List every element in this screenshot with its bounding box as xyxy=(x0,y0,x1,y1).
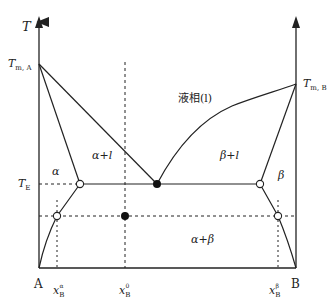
beta-tie-point xyxy=(274,212,281,219)
arrow-up-icon xyxy=(292,16,300,28)
region-liquid: 液相(l) xyxy=(178,93,212,104)
tm-a-label: Tm, A xyxy=(8,58,32,72)
solvus-left xyxy=(39,184,80,268)
x-beta-subscript: B xyxy=(275,291,280,299)
region-alpha-beta: α+β xyxy=(191,234,214,245)
te-subscript: E xyxy=(25,184,30,192)
tm-b-subscript: m, B xyxy=(310,84,326,92)
alpha-tie-point xyxy=(53,212,60,219)
x-beta-superscript: β xyxy=(275,282,278,289)
solidus-left xyxy=(39,64,80,184)
alpha-eutectic-point xyxy=(76,180,83,187)
x-alpha-subscript: B xyxy=(59,291,64,299)
region-alpha-liquid: α+l xyxy=(92,150,112,161)
phase-diagram xyxy=(0,0,335,304)
x-beta-label: xBβ xyxy=(269,283,279,299)
region-alpha: α xyxy=(52,166,59,177)
x-overall-label: xB0 xyxy=(119,283,129,299)
te-label: TE xyxy=(18,178,30,192)
region-beta-liquid: β+l xyxy=(220,150,239,161)
eutectic-point xyxy=(153,180,161,188)
x-alpha-superscript: α xyxy=(59,282,63,289)
overall-point xyxy=(121,212,129,220)
region-beta: β xyxy=(278,170,284,181)
arrow-up-icon xyxy=(35,16,43,28)
component-a-label: A xyxy=(34,278,43,290)
beta-eutectic-point xyxy=(256,180,263,187)
tm-b-label: Tm, B xyxy=(303,78,327,92)
tm-a-subscript: m, A xyxy=(15,64,31,72)
x-overall-subscript: B xyxy=(125,291,130,299)
x-overall-superscript: 0 xyxy=(125,282,129,289)
y-axis-label: T xyxy=(22,20,31,33)
x-alpha-label: xBα xyxy=(53,283,63,299)
component-b-label: B xyxy=(291,278,300,290)
